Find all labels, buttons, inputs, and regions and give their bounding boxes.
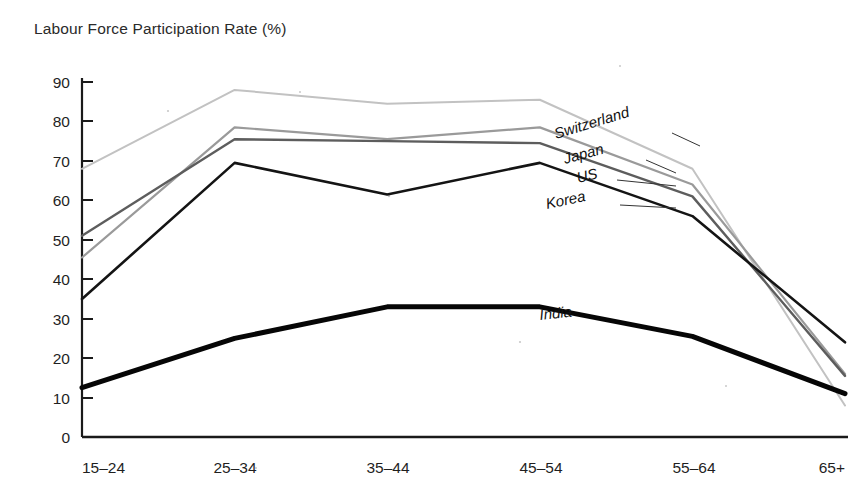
leader-switzerland [672,133,700,146]
y-tick-80: 80 [53,113,71,130]
y-tick-50: 50 [53,232,71,249]
x-axis-labels: 15–24 25–34 35–44 45–54 55–64 65+ [82,459,845,476]
y-axis-labels: 90 80 70 60 50 40 30 20 10 0 [53,74,71,446]
chart-axes [82,78,848,437]
x-tick-25-34: 25–34 [213,459,256,476]
series-line-us [82,139,845,376]
series-line-korea [82,163,845,342]
label-leader-lines [617,133,700,208]
y-tick-0: 0 [61,429,70,446]
leader-japan [646,160,676,173]
x-tick-65-plus: 65+ [819,459,845,476]
series-line-india [82,307,845,394]
y-tick-70: 70 [53,153,71,170]
y-tick-40: 40 [53,271,71,288]
x-tick-35-44: 35–44 [366,459,409,476]
y-tick-20: 20 [53,350,71,367]
y-tick-30: 30 [53,311,71,328]
scan-artifacts [167,65,727,469]
series-label-korea: Korea [544,187,587,212]
line-chart-plot: 90 80 70 60 50 40 30 20 10 0 15–24 25–34… [0,0,862,502]
y-tick-60: 60 [53,192,71,209]
series-label-india: India [539,303,573,323]
x-tick-45-54: 45–54 [519,459,562,476]
x-tick-55-64: 55–64 [672,459,715,476]
y-tick-10: 10 [53,390,71,407]
y-tick-90: 90 [53,74,71,91]
x-tick-15-24: 15–24 [82,459,125,476]
chart-container: Labour Force Participation Rate (%) [0,0,862,502]
series-lines [82,90,845,406]
